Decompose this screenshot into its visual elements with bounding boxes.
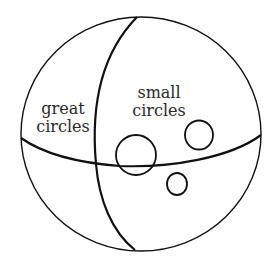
- small-circle-upper-right: [185, 121, 213, 150]
- great-circle-equator: [21, 135, 261, 166]
- great-circles-label: great circles: [34, 100, 92, 136]
- small-circles-label-line2: circles: [128, 102, 190, 120]
- small-circle-large: [116, 135, 156, 175]
- great-circle-meridian: [95, 17, 137, 250]
- great-circles-label-line1: great: [34, 100, 92, 118]
- small-circles-label: small circles: [128, 84, 190, 120]
- great-circles-label-line2: circles: [34, 118, 92, 136]
- small-circle-lower: [167, 173, 187, 195]
- small-circles-label-line1: small: [128, 84, 190, 102]
